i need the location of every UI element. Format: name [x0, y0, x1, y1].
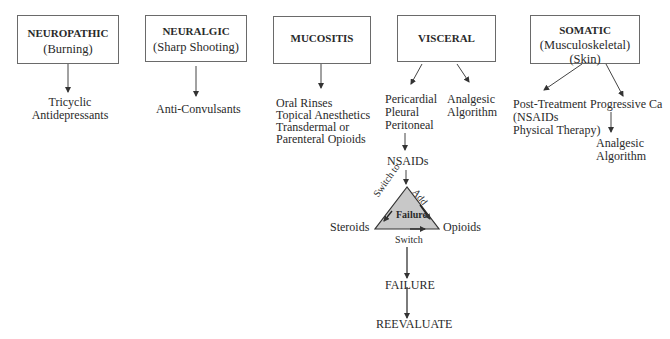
category-box-neuropathic: NEUROPATHIC (Burning)	[17, 15, 119, 64]
category-title: NEUROPATHIC	[18, 25, 118, 41]
treatment-post-treatment: Post-Treatment (NSAIDs Physical Therapy)	[513, 98, 600, 137]
category-subtitle: (Skin)	[531, 52, 639, 66]
category-subtitle: (Burning)	[18, 41, 118, 57]
switch-label: Switch	[395, 233, 423, 246]
treatment-pericardial-pleural-peritoneal: Pericardial Pleural Peritoneal	[385, 93, 437, 132]
opioids-label: Opioids	[443, 221, 481, 234]
category-box-somatic: SOMATIC (Musculoskeletal) (Skin)	[530, 15, 640, 64]
category-box-visceral: VISCERAL	[397, 15, 496, 62]
treatment-tricyclic-antidepressants: Tricyclic Antidepressants	[30, 96, 110, 122]
treatment-visceral-analgesic-algorithm: Analgesic Algorithm	[447, 93, 497, 119]
category-subtitle: (Sharp Shooting)	[146, 39, 246, 55]
treatment-somatic-analgesic-algorithm: Analgesic Algorithm	[596, 137, 646, 163]
treatment-mucositis-options: Oral Rinses Topical Anesthetics Transder…	[276, 97, 370, 145]
category-title: VISCERAL	[398, 30, 495, 46]
reevaluate-label: REEVALUATE	[376, 318, 452, 331]
category-box-neuralgic: NEURALGIC (Sharp Shooting)	[145, 15, 247, 62]
steroids-label: Steroids	[330, 221, 369, 234]
category-title: SOMATIC	[531, 22, 639, 38]
failure-label: FAILURE	[385, 279, 435, 292]
category-title: MUCOSITIS	[274, 30, 370, 46]
category-title: NEURALGIC	[146, 23, 246, 39]
category-box-mucositis: MUCOSITIS	[273, 16, 371, 64]
category-subtitle: (Musculoskeletal)	[531, 38, 639, 52]
treatment-anti-convulsants: Anti-Convulsants	[156, 103, 241, 116]
treatment-progressive-ca: Progressive Ca	[590, 98, 662, 111]
triangle-failure-label: Failure	[396, 208, 427, 221]
